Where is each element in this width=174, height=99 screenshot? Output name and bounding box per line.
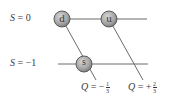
fraction: 23 [153, 81, 157, 94]
quark-d-label: d [58, 12, 66, 24]
charge-plus-two-thirds-line [109, 19, 143, 80]
charge-minus-third-label: Q = −13 [81, 81, 110, 94]
strangeness-minus1-label: S = −1 [10, 57, 36, 68]
quark-s-label: s [80, 56, 88, 67]
quark-u-label: u [105, 12, 113, 24]
strangeness-0-label: S = 0 [10, 12, 31, 23]
charge-plus-two-thirds-label: Q = +23 [128, 81, 157, 94]
fraction: 13 [106, 81, 110, 94]
